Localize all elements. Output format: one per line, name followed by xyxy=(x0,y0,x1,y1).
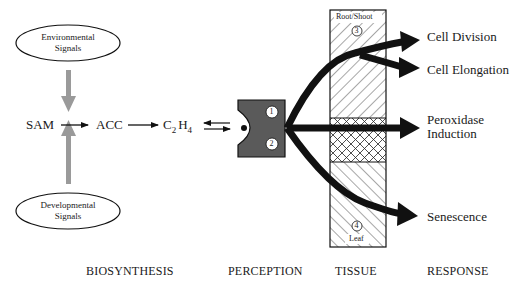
sam-label: SAM xyxy=(26,117,54,133)
response-peroxidase-induction: Peroxidase Induction xyxy=(427,113,484,141)
developmental-signals-label: Developmental Signals xyxy=(23,200,113,222)
acc-label: ACC xyxy=(96,117,123,133)
heading-biosynthesis: BIOSYNTHESIS xyxy=(86,264,174,279)
ethylene-c: C xyxy=(163,117,172,132)
tissue-root-shoot-label: Root/Shoot xyxy=(336,12,372,21)
ethylene-h: H xyxy=(178,117,187,132)
environmental-line1: Environmental xyxy=(41,32,95,42)
receptor-site-2: 2 xyxy=(270,139,274,148)
response-cell-elongation: Cell Elongation xyxy=(427,63,509,77)
heading-perception: PERCEPTION xyxy=(228,264,303,279)
tissue-number-3: 3 xyxy=(355,26,359,35)
environmental-line2: Signals xyxy=(55,43,82,53)
peroxidase-line2: Induction xyxy=(427,126,477,141)
ethylene-h-sub: 4 xyxy=(188,125,193,135)
environmental-signals-label: Environmental Signals xyxy=(23,32,113,54)
developmental-signal-arrow xyxy=(61,120,76,184)
ethylene-c-sub: 2 xyxy=(172,125,177,135)
peroxidase-line1: Peroxidase xyxy=(427,112,484,127)
receptor-site-1: 1 xyxy=(270,107,274,116)
developmental-line2: Signals xyxy=(55,211,82,221)
response-cell-division: Cell Division xyxy=(427,30,497,44)
receptor-shape xyxy=(238,100,285,157)
tissue-leaf-label: Leaf xyxy=(349,234,364,243)
heading-response: RESPONSE xyxy=(427,264,489,279)
environmental-signal-arrow xyxy=(61,70,76,112)
response-senescence: Senescence xyxy=(427,210,487,224)
heading-tissue: TISSUE xyxy=(335,264,377,279)
developmental-line1: Developmental xyxy=(41,200,96,210)
tissue-number-4: 4 xyxy=(355,221,359,230)
ethylene-label: C2H4 xyxy=(163,117,192,135)
